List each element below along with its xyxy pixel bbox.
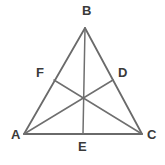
side-bc [85, 28, 142, 134]
medians-group [24, 28, 142, 134]
geometry-figure: B A C F D E [0, 0, 165, 165]
midpoint-label-e: E [78, 140, 87, 153]
midpoint-label-f: F [36, 66, 44, 79]
median-be [83, 28, 85, 134]
vertex-label-b: B [82, 4, 91, 17]
midpoint-label-d: D [118, 66, 127, 79]
vertex-label-a: A [11, 128, 20, 141]
vertex-label-c: C [147, 128, 156, 141]
